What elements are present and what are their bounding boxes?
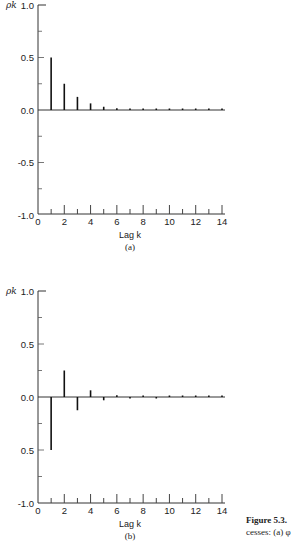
x-tick-label: 6 [114,505,119,516]
panel-label: (b) [125,531,136,541]
y-tick-label: 0.5 [21,445,34,456]
x-tick-label: 4 [88,505,93,516]
figure-caption-title: Figure 5.3. [246,515,287,525]
x-axis-label: Lag k [119,519,142,529]
x-tick-label: 2 [62,505,67,516]
figure-caption-text: cesses: (a) φ [246,527,291,537]
y-tick-label: 1.0 [21,286,34,297]
acf-chart-b: 1.00.50.00.5-1.002468101214ρkLag k(b) [0,0,301,549]
y-tick-label: 0.5 [21,339,34,350]
x-tick-label: 0 [35,505,40,516]
y-axis-label: ρk [5,286,17,296]
x-tick-label: 10 [164,505,175,516]
x-tick-label: 12 [190,505,201,516]
x-tick-label: 14 [217,505,228,516]
y-tick-label: -1.0 [18,498,34,509]
x-tick-label: 8 [140,505,145,516]
y-tick-label: 0.0 [21,392,34,403]
